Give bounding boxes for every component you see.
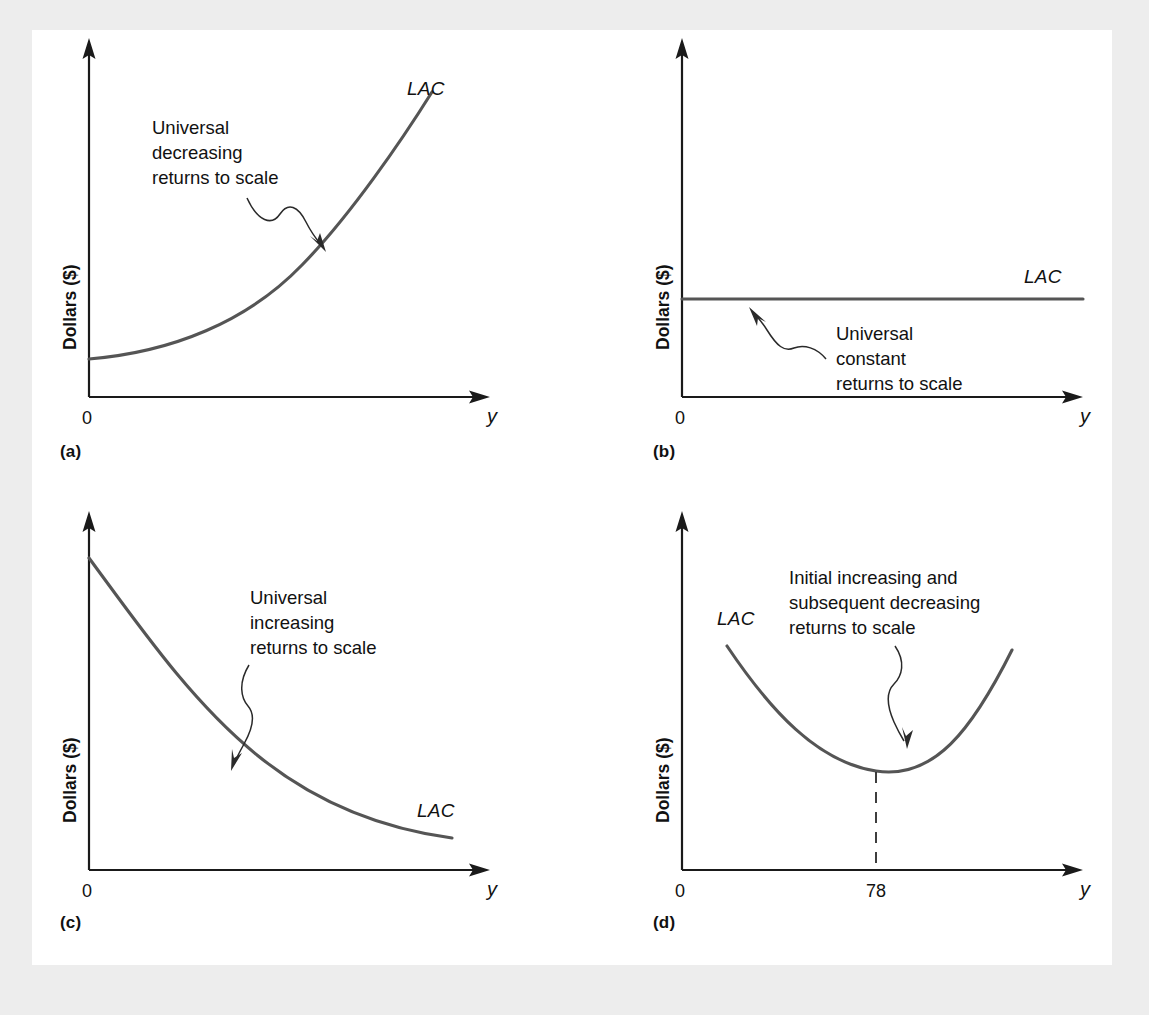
origin-label-a: 0: [82, 408, 92, 429]
curve-label-d: LAC: [717, 608, 755, 630]
panel-label-d: (d): [653, 913, 675, 933]
x-axis-label-a: y: [487, 405, 497, 428]
curve-label-b: LAC: [1024, 266, 1062, 288]
pointer-arrow-a: [247, 198, 326, 252]
x-axis-label-d: y: [1080, 878, 1090, 901]
lac-curve-d: [727, 646, 1012, 772]
panel-a: Dollars ($) y 0 LAC Universal decreasing…: [32, 30, 572, 470]
panel-a-plot: [32, 30, 572, 470]
origin-label-b: 0: [675, 408, 685, 429]
panel-label-a: (a): [60, 442, 81, 462]
panel-label-b: (b): [653, 442, 675, 462]
y-axis-label-d: Dollars ($): [653, 737, 674, 823]
x-axis-d: [682, 864, 1083, 877]
annotation-d: Initial increasing and subsequent decrea…: [789, 565, 980, 640]
origin-label-c: 0: [82, 881, 92, 902]
panel-d-plot: [572, 470, 1112, 940]
pointer-arrow-d: [888, 646, 913, 749]
y-axis-label-c: Dollars ($): [60, 737, 81, 823]
y-axis-b: [676, 38, 689, 397]
annotation-a: Universal decreasing returns to scale: [152, 115, 278, 190]
x-axis-a: [89, 391, 490, 404]
annotation-b: Universal constant returns to scale: [836, 321, 962, 396]
panel-b-plot: [572, 30, 1112, 470]
curve-label-c: LAC: [417, 800, 455, 822]
x-axis-c: [89, 864, 490, 877]
y-axis-label-a: Dollars ($): [60, 264, 81, 350]
x-axis-label-c: y: [487, 878, 497, 901]
panel-label-c: (c): [60, 913, 81, 933]
curve-label-a: LAC: [407, 78, 445, 100]
y-axis-d: [676, 511, 689, 870]
x-axis-label-b: y: [1080, 405, 1090, 428]
tick-label-78: 78: [866, 881, 886, 902]
panel-b: Dollars ($) y 0 LAC Universal constant r…: [572, 30, 1112, 470]
annotation-c: Universal increasing returns to scale: [250, 585, 376, 660]
y-axis-a: [83, 38, 96, 397]
y-axis-label-b: Dollars ($): [653, 264, 674, 350]
panel-c: Dollars ($) y 0 LAC Universal increasing…: [32, 470, 572, 940]
pointer-arrow-c: [231, 665, 252, 771]
pointer-arrow-b: [749, 307, 826, 359]
panel-c-plot: [32, 470, 572, 940]
figure-card: Dollars ($) y 0 LAC Universal decreasing…: [32, 30, 1112, 965]
origin-label-d: 0: [675, 881, 685, 902]
panel-d: Dollars ($) y 0 78 LAC Initial increasin…: [572, 470, 1112, 940]
